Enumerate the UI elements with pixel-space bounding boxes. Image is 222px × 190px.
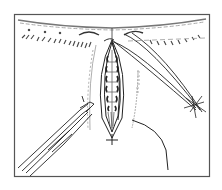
knot-mark — [106, 134, 118, 145]
suture-crossings — [106, 50, 118, 130]
skin-fold-line — [132, 120, 168, 170]
surgical-illustration — [0, 0, 222, 190]
needle-holder[interactable] — [18, 96, 94, 176]
wound-base-hatch — [108, 112, 114, 128]
